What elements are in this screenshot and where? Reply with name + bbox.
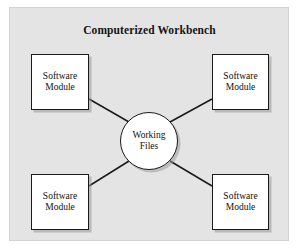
connector-top-right-to-hub	[170, 99, 212, 122]
module-node-label: Software Module	[43, 191, 77, 214]
hub-node-label: Working Files	[132, 130, 165, 153]
module-node-bottom-left[interactable]: Software Module	[31, 174, 89, 230]
connector-bottom-right-to-hub	[170, 161, 212, 186]
connector-top-left-to-hub	[89, 99, 129, 122]
module-node-label: Software Module	[43, 71, 77, 94]
hub-node-working-files[interactable]: Working Files	[120, 112, 178, 170]
module-node-label: Software Module	[223, 71, 257, 94]
module-node-top-left[interactable]: Software Module	[31, 54, 89, 110]
module-node-bottom-right[interactable]: Software Module	[212, 174, 269, 230]
diagram-canvas: Computerized Workbench Software Module S…	[0, 0, 299, 252]
connector-bottom-left-to-hub	[89, 161, 129, 186]
module-node-top-right[interactable]: Software Module	[212, 54, 269, 110]
module-node-label: Software Module	[223, 191, 257, 214]
